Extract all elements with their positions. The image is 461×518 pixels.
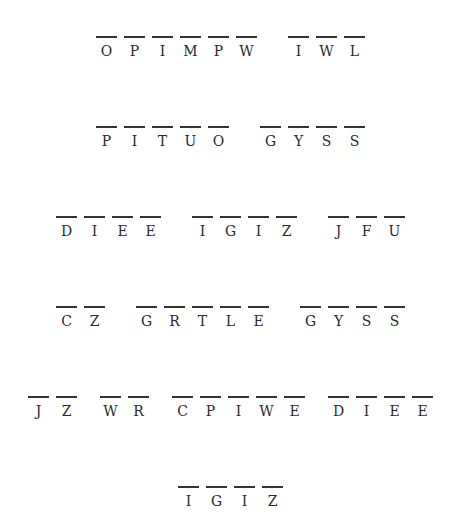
letter-slot[interactable]: W <box>313 36 341 59</box>
letter-slot[interactable]: F <box>353 216 381 239</box>
answer-blank[interactable] <box>220 306 241 308</box>
letter-slot[interactable]: I <box>189 216 217 239</box>
answer-blank[interactable] <box>356 396 377 398</box>
answer-blank[interactable] <box>206 486 227 488</box>
letter-slot[interactable]: Z <box>81 306 109 329</box>
letter-slot[interactable]: I <box>149 36 177 59</box>
answer-blank[interactable] <box>356 306 377 308</box>
answer-blank[interactable] <box>136 306 157 308</box>
letter-slot[interactable]: Z <box>53 396 81 419</box>
letter-slot[interactable]: L <box>217 306 245 329</box>
answer-blank[interactable] <box>276 216 297 218</box>
letter-slot[interactable]: S <box>353 306 381 329</box>
letter-slot[interactable]: U <box>381 216 409 239</box>
letter-slot[interactable]: I <box>245 216 273 239</box>
answer-blank[interactable] <box>262 486 283 488</box>
letter-slot[interactable]: Y <box>285 126 313 149</box>
answer-blank[interactable] <box>56 216 77 218</box>
letter-slot[interactable]: E <box>409 396 437 419</box>
letter-slot[interactable]: J <box>325 216 353 239</box>
letter-slot[interactable]: G <box>203 486 231 509</box>
answer-blank[interactable] <box>140 216 161 218</box>
answer-blank[interactable] <box>84 216 105 218</box>
answer-blank[interactable] <box>384 306 405 308</box>
answer-blank[interactable] <box>200 396 221 398</box>
answer-blank[interactable] <box>100 396 121 398</box>
letter-slot[interactable]: G <box>257 126 285 149</box>
answer-blank[interactable] <box>192 216 213 218</box>
letter-slot[interactable]: W <box>253 396 281 419</box>
letter-slot[interactable]: S <box>381 306 409 329</box>
letter-slot[interactable]: I <box>81 216 109 239</box>
answer-blank[interactable] <box>124 126 145 128</box>
letter-slot[interactable]: S <box>341 126 369 149</box>
letter-slot[interactable]: Y <box>325 306 353 329</box>
answer-blank[interactable] <box>124 36 145 38</box>
answer-blank[interactable] <box>356 216 377 218</box>
answer-blank[interactable] <box>28 396 49 398</box>
answer-blank[interactable] <box>288 36 309 38</box>
answer-blank[interactable] <box>172 396 193 398</box>
answer-blank[interactable] <box>344 36 365 38</box>
letter-slot[interactable]: M <box>177 36 205 59</box>
letter-slot[interactable]: G <box>217 216 245 239</box>
answer-blank[interactable] <box>316 126 337 128</box>
answer-blank[interactable] <box>328 216 349 218</box>
answer-blank[interactable] <box>180 126 201 128</box>
answer-blank[interactable] <box>234 486 255 488</box>
letter-slot[interactable]: T <box>149 126 177 149</box>
letter-slot[interactable]: R <box>125 396 153 419</box>
letter-slot[interactable]: C <box>169 396 197 419</box>
letter-slot[interactable]: T <box>189 306 217 329</box>
answer-blank[interactable] <box>56 306 77 308</box>
answer-blank[interactable] <box>316 36 337 38</box>
answer-blank[interactable] <box>328 306 349 308</box>
letter-slot[interactable]: I <box>231 486 259 509</box>
answer-blank[interactable] <box>152 36 173 38</box>
letter-slot[interactable]: Z <box>259 486 287 509</box>
answer-blank[interactable] <box>208 126 229 128</box>
answer-blank[interactable] <box>164 306 185 308</box>
answer-blank[interactable] <box>96 126 117 128</box>
letter-slot[interactable]: D <box>53 216 81 239</box>
answer-blank[interactable] <box>56 396 77 398</box>
letter-slot[interactable]: D <box>325 396 353 419</box>
letter-slot[interactable]: C <box>53 306 81 329</box>
answer-blank[interactable] <box>112 216 133 218</box>
letter-slot[interactable]: G <box>133 306 161 329</box>
answer-blank[interactable] <box>300 306 321 308</box>
letter-slot[interactable]: E <box>137 216 165 239</box>
letter-slot[interactable]: P <box>197 396 225 419</box>
answer-blank[interactable] <box>260 126 281 128</box>
letter-slot[interactable]: P <box>93 126 121 149</box>
letter-slot[interactable]: I <box>175 486 203 509</box>
answer-blank[interactable] <box>228 396 249 398</box>
letter-slot[interactable]: W <box>233 36 261 59</box>
letter-slot[interactable]: O <box>93 36 121 59</box>
letter-slot[interactable]: U <box>177 126 205 149</box>
letter-slot[interactable]: Z <box>273 216 301 239</box>
letter-slot[interactable]: I <box>353 396 381 419</box>
letter-slot[interactable]: S <box>313 126 341 149</box>
letter-slot[interactable]: P <box>205 36 233 59</box>
letter-slot[interactable]: G <box>297 306 325 329</box>
letter-slot[interactable]: E <box>109 216 137 239</box>
letter-slot[interactable]: P <box>121 36 149 59</box>
letter-slot[interactable]: I <box>285 36 313 59</box>
answer-blank[interactable] <box>344 126 365 128</box>
answer-blank[interactable] <box>84 306 105 308</box>
answer-blank[interactable] <box>208 36 229 38</box>
letter-slot[interactable]: R <box>161 306 189 329</box>
answer-blank[interactable] <box>192 306 213 308</box>
letter-slot[interactable]: E <box>281 396 309 419</box>
answer-blank[interactable] <box>284 396 305 398</box>
letter-slot[interactable]: L <box>341 36 369 59</box>
letter-slot[interactable]: E <box>381 396 409 419</box>
letter-slot[interactable]: E <box>245 306 273 329</box>
letter-slot[interactable]: O <box>205 126 233 149</box>
answer-blank[interactable] <box>128 396 149 398</box>
answer-blank[interactable] <box>220 216 241 218</box>
answer-blank[interactable] <box>96 36 117 38</box>
answer-blank[interactable] <box>328 396 349 398</box>
answer-blank[interactable] <box>412 396 433 398</box>
